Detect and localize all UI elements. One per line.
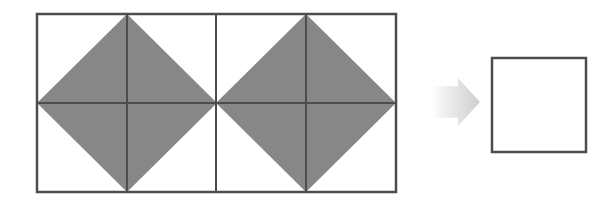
transformation-arrow-group bbox=[432, 78, 480, 126]
result-square-group bbox=[492, 58, 586, 152]
puzzle-figure bbox=[0, 0, 614, 202]
result-square-shape bbox=[492, 58, 586, 152]
arrow-right-icon bbox=[432, 78, 480, 126]
figure-canvas bbox=[0, 0, 614, 202]
source-grid-group bbox=[37, 14, 396, 192]
